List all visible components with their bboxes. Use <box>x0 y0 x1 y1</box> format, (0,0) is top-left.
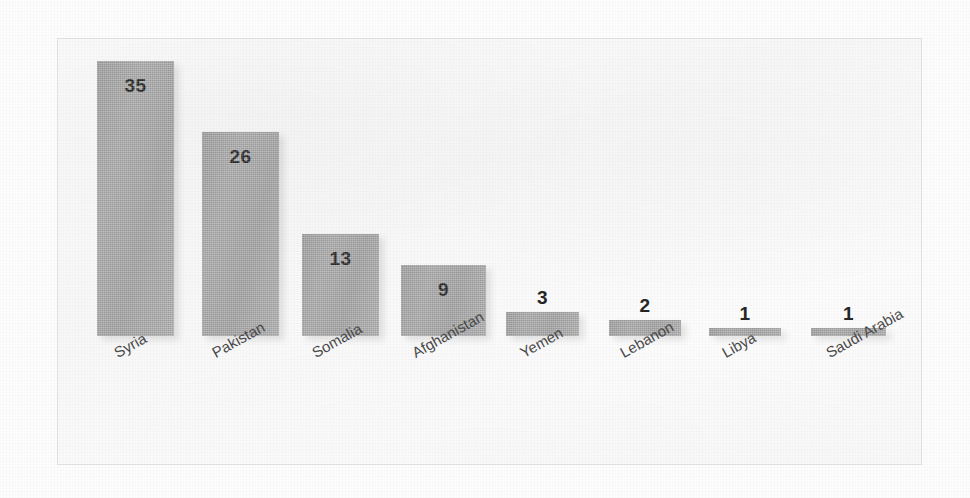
plot-area: 35261393211 <box>97 61 897 336</box>
bar-group: 1 <box>709 61 781 336</box>
category-axis-labels: SyriaPakistanSomaliaAfghanistanYemenLeba… <box>97 336 927 456</box>
bar-group: 26 <box>202 61 279 336</box>
bar-somalia[interactable]: 13 <box>302 234 379 336</box>
bar-group: 3 <box>506 61 579 336</box>
bar-value-label: 9 <box>401 279 486 301</box>
bar-syria[interactable]: 35 <box>97 61 174 336</box>
bar-value-label: 13 <box>302 248 379 270</box>
bar-value-label: 1 <box>709 303 781 325</box>
bar-group: 9 <box>401 61 486 336</box>
bar-value-label: 35 <box>97 75 174 97</box>
bar-group: 35 <box>97 61 174 336</box>
scanned-page: 35261393211 SyriaPakistanSomaliaAfghanis… <box>0 0 970 498</box>
bar-value-label: 3 <box>506 287 579 309</box>
bar-group: 2 <box>609 61 681 336</box>
bar-group: 13 <box>302 61 379 336</box>
bar-value-label: 2 <box>609 295 681 317</box>
bar-group: 1 <box>811 61 886 336</box>
chart-frame: 35261393211 SyriaPakistanSomaliaAfghanis… <box>57 38 922 465</box>
bar-value-label: 26 <box>202 146 279 168</box>
bar-pakistan[interactable]: 26 <box>202 132 279 336</box>
